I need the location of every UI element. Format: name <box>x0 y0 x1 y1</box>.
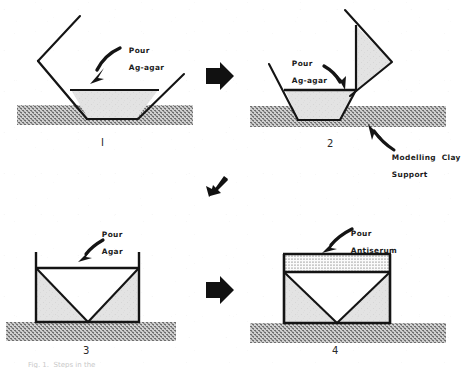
panel-3-pour-label-line1: Pour <box>102 230 123 239</box>
panel-2-support-label-line2: Support <box>392 170 428 179</box>
figure-caption-clipped: Fig. 1. Steps in the <box>0 361 456 368</box>
panel-3-number: 3 <box>83 345 90 356</box>
panel-2-raised-leaf-fill <box>356 26 392 90</box>
panel-2-number: 2 <box>327 138 334 149</box>
panel-4-pour-label: Pour Antiserum <box>345 221 397 255</box>
panel-4-clay-support <box>250 323 446 343</box>
flow-arrow-right-icon <box>206 62 234 90</box>
panel-2-pour-label: Pour Ag-agar <box>286 51 327 85</box>
flow-arrow-right-icon-2 <box>206 276 234 304</box>
panel-1-pour-label-line2: Ag-agar <box>129 63 164 72</box>
arrow-2-to-3 <box>206 176 228 197</box>
panel-1-pour-arrow <box>97 48 120 70</box>
panel-1-plate-upper-leaf <box>38 16 80 61</box>
panel-4-number: 4 <box>332 345 339 356</box>
panel-3-group <box>6 240 176 341</box>
panel-2-support-label: Modelling Clay Support <box>386 145 461 179</box>
arrow-3-to-4 <box>206 276 234 304</box>
panel-3-pour-arrowhead <box>78 248 92 262</box>
panel-4-pour-label-line2: Antiserum <box>351 246 397 255</box>
panel-2-pour-arrowhead <box>336 74 346 90</box>
panel-3-pour-label-line2: Agar <box>102 247 123 256</box>
panel-2-clay-support <box>250 106 446 127</box>
panel-2-group <box>250 10 446 150</box>
panel-1-number: I <box>101 137 104 148</box>
panel-3-clay-support <box>6 322 176 341</box>
panel-4-pour-arrowhead <box>322 238 337 253</box>
panel-1-pour-label: Pour Ag-agar <box>123 38 164 72</box>
panel-2-support-label-line1: Modelling Clay <box>392 153 461 162</box>
panel-1-group <box>17 16 193 125</box>
panel-2-pour-label-line2: Ag-agar <box>292 76 327 85</box>
panel-3-pour-label: Pour Agar <box>96 222 123 256</box>
arrow-1-to-2 <box>206 62 234 90</box>
panel-4-antiserum-layer <box>285 255 389 272</box>
panel-4-pour-label-line1: Pour <box>351 229 372 238</box>
panel-2-pour-label-line1: Pour <box>292 59 313 68</box>
panel-1-pour-label-line1: Pour <box>129 46 150 55</box>
